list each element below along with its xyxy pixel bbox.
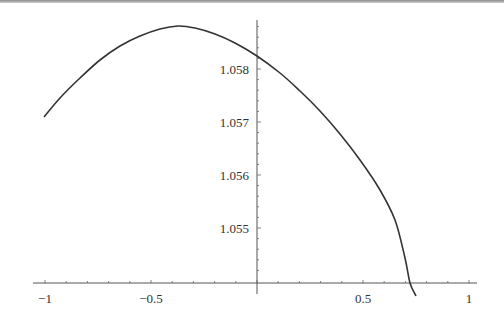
y-tick-label: 1.057 (220, 115, 250, 130)
x-tick-label: 0.5 (355, 291, 371, 306)
y-tick-label: 1.055 (220, 221, 249, 236)
y-tick-label: 1.056 (220, 168, 250, 183)
x-tick-label: 1 (466, 291, 473, 306)
x-tick-label: −1 (38, 291, 52, 306)
line-chart: −1−0.50.511.0551.0561.0571.058 (0, 0, 504, 325)
x-tick-label: −0.5 (139, 291, 163, 306)
y-tick-label: 1.058 (220, 62, 249, 77)
